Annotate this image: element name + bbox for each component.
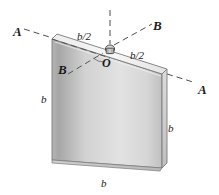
- label-axis-b-upper-right: B: [153, 19, 162, 32]
- label-dim-half-left: b/2: [77, 31, 91, 42]
- plate-right-edge: [162, 69, 167, 168]
- figure-canvas: A A B B O b/2 b/2 b b b: [0, 0, 219, 195]
- label-axis-a-right: A: [198, 83, 207, 96]
- plate-drawing: [0, 0, 219, 195]
- label-origin-o: O: [102, 57, 111, 69]
- label-dim-side-bottom: b: [101, 178, 107, 189]
- label-axis-b-lower-left: B: [58, 63, 67, 76]
- pivot-point-o: [105, 45, 114, 54]
- label-dim-side-right: b: [168, 123, 174, 134]
- label-dim-side-left: b: [41, 94, 47, 105]
- label-dim-half-right: b/2: [130, 50, 144, 61]
- label-axis-a-left: A: [13, 25, 22, 38]
